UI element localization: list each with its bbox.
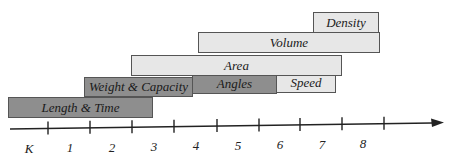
bar-label: Area (224, 58, 249, 74)
bar-weight-capacity: Weight & Capacity (84, 77, 193, 97)
grade-label-5: 5 (228, 138, 248, 154)
bar-label: Density (326, 15, 366, 31)
bar-label: Weight & Capacity (89, 79, 188, 95)
bar-volume: Volume (198, 32, 380, 53)
grade-label-k: K (19, 141, 39, 157)
bar-label: Speed (290, 75, 321, 91)
bar-label: Angles (217, 76, 252, 92)
measurement-progression-diagram: Length & Time Weight & Capacity Angles S… (0, 0, 454, 160)
axis-line (10, 123, 432, 129)
grade-label-4: 4 (186, 138, 206, 154)
grade-label-8: 8 (353, 136, 373, 152)
bar-label: Length & Time (41, 100, 119, 116)
grade-label-7: 7 (312, 137, 332, 153)
grade-label-1: 1 (60, 140, 80, 156)
grade-label-2: 2 (102, 140, 122, 156)
grade-label-3: 3 (144, 139, 164, 155)
bar-density: Density (313, 12, 379, 33)
bar-label: Volume (270, 35, 308, 51)
bar-area: Area (131, 55, 342, 76)
bar-speed: Speed (276, 73, 336, 93)
arrow-head-icon (431, 119, 444, 128)
bar-angles: Angles (192, 74, 277, 94)
bar-length-time: Length & Time (8, 97, 153, 118)
grade-label-6: 6 (270, 137, 290, 153)
